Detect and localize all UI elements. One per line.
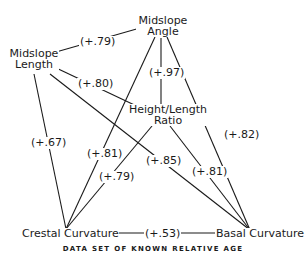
edge-label-length-crestal: (+.67) — [30, 137, 67, 149]
edge-label-ratio-basal: (+.81) — [191, 166, 228, 178]
node-height-length-ratio: Height/Length Ratio — [127, 104, 209, 126]
edge-label-ratio-crestal: (+.79) — [98, 171, 135, 183]
edge-label-angle-crestal: (+.81) — [86, 148, 123, 160]
edge-label-length-basal: (+.85) — [145, 155, 182, 167]
edge-line-ratio-basal — [170, 126, 250, 230]
node-midslope-length: Midslope Length — [9, 48, 59, 70]
edge-label-length-angle: (+.79) — [79, 36, 116, 48]
edge-line-length-crestal — [34, 74, 66, 229]
node-crestal-curvature: Crestal Curvature — [22, 228, 119, 239]
edge-label-crestal-basal: (+.53) — [144, 228, 181, 240]
edge-label-angle-ratio: (+.97) — [148, 67, 185, 79]
edge-line-angle-crestal — [66, 37, 155, 229]
diagram-caption: DATA SET OF KNOWN RELATIVE AGE — [0, 245, 306, 253]
edge-label-length-ratio: (+.80) — [77, 78, 114, 90]
node-midslope-length-line2: Length — [9, 59, 59, 70]
node-midslope-angle: Midslope Angle — [136, 15, 190, 37]
correlation-diagram: Midslope Angle Midslope Length Height/Le… — [0, 0, 306, 269]
node-height-length-ratio-line2: Ratio — [127, 115, 209, 126]
edge-line-length-basal — [50, 74, 250, 230]
node-midslope-angle-line2: Angle — [136, 26, 190, 37]
node-basal-curvature: Basal Curvature — [216, 228, 304, 239]
edge-label-angle-basal: (+.82) — [223, 129, 260, 141]
